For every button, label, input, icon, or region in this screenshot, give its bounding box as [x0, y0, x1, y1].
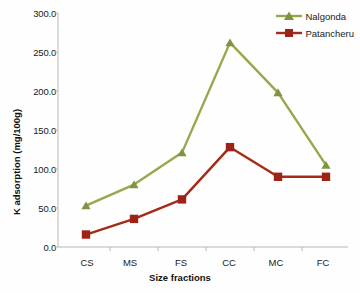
series-nalgonda — [81, 38, 330, 209]
legend: Nalgonda Patancheru — [276, 10, 354, 39]
legend-label-patancheru: Patancheru — [305, 28, 354, 39]
data-point-marker — [322, 173, 330, 181]
data-point-marker — [177, 148, 186, 156]
y-tick-marks — [54, 13, 58, 247]
plot-area — [0, 0, 360, 293]
series-line — [86, 43, 326, 206]
chart-container: K adsorption (mg/100g) 0.0 50.0 100.0 15… — [0, 0, 360, 293]
legend-marker-triangle-icon — [276, 10, 302, 22]
x-tick-marks — [110, 247, 302, 251]
legend-item-patancheru[interactable]: Patancheru — [276, 27, 354, 39]
series-layer — [81, 38, 330, 238]
data-point-marker — [82, 230, 90, 238]
data-point-marker — [225, 38, 234, 46]
legend-label-nalgonda: Nalgonda — [305, 11, 346, 22]
legend-item-nalgonda[interactable]: Nalgonda — [276, 10, 354, 22]
data-point-marker — [274, 173, 282, 181]
data-point-marker — [226, 143, 234, 151]
data-point-marker — [178, 195, 186, 203]
legend-marker-square-icon — [276, 27, 302, 39]
data-point-marker — [130, 215, 138, 223]
